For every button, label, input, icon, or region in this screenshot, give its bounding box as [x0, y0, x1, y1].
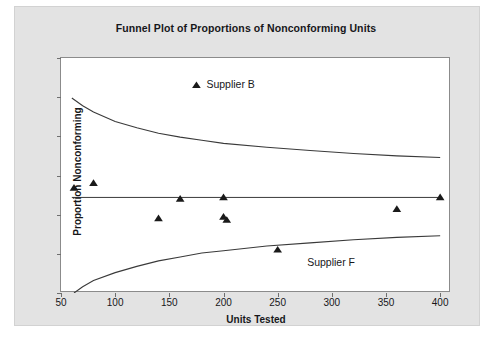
x-tick-label: 250 — [258, 298, 298, 308]
x-tick-label: 400 — [420, 298, 460, 308]
chart-figure: Funnel Plot of Proportions of Nonconform… — [0, 0, 492, 344]
x-tick-label: 50 — [41, 298, 81, 308]
data-point-marker — [219, 193, 228, 200]
annotation-supplier-f: Supplier F — [307, 257, 355, 268]
upper-limit-curve — [72, 98, 440, 158]
x-tick-label: 100 — [95, 298, 135, 308]
annotation-supplier-b: Supplier B — [206, 79, 254, 90]
y-tick-mark — [57, 254, 61, 255]
x-tick-label: 300 — [312, 298, 352, 308]
data-point-marker — [154, 215, 163, 222]
legend-marker-supplier-b — [192, 81, 201, 88]
y-tick-mark — [57, 58, 61, 59]
data-point-marker — [392, 205, 401, 212]
plot-area: Supplier BSupplier F0.000.050.100.150.20… — [60, 57, 450, 292]
x-tick-label: 150 — [149, 298, 189, 308]
data-point-marker — [89, 179, 98, 186]
y-tick-mark — [57, 215, 61, 216]
x-tick-label: 350 — [366, 298, 406, 308]
y-tick-mark — [57, 136, 61, 137]
y-tick-mark — [57, 97, 61, 98]
lower-limit-curve — [74, 236, 440, 293]
plot-svg — [61, 58, 451, 293]
y-tick-mark — [57, 176, 61, 177]
data-point-marker — [436, 193, 445, 200]
y-axis-label: Proportion Nonconforming — [72, 62, 83, 282]
x-tick-label: 200 — [204, 298, 244, 308]
data-point-marker — [176, 195, 185, 202]
data-point-marker — [273, 246, 282, 253]
x-axis-label: Units Tested — [61, 314, 451, 325]
chart-title: Funnel Plot of Proportions of Nonconform… — [0, 22, 492, 34]
